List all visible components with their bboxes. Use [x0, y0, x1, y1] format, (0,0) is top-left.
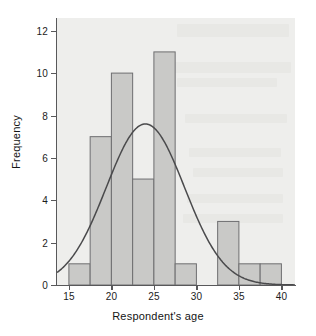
y-axis-tick-label: 0: [42, 280, 48, 291]
x-axis-tick: [196, 285, 197, 290]
x-axis-tick: [69, 285, 70, 290]
y-axis-tick-label: 8: [42, 110, 48, 121]
y-axis-tick-label: 10: [36, 68, 48, 79]
y-axis-tick-label: 12: [36, 25, 48, 36]
histogram-figure: 024681012152025303540 Respondent's age F…: [0, 0, 316, 336]
x-axis-tick: [281, 285, 282, 290]
x-axis-tick-label: 30: [191, 291, 203, 302]
x-axis-tick-label: 25: [148, 291, 160, 302]
x-axis-tick-label: 20: [106, 291, 118, 302]
x-axis-tick-label: 40: [276, 291, 288, 302]
x-axis-tick: [111, 285, 112, 290]
x-axis-title: Respondent's age: [0, 310, 316, 322]
y-axis-tick: [51, 73, 57, 74]
y-axis-tick-label: 6: [42, 152, 48, 163]
y-axis-tick: [51, 243, 57, 244]
y-axis-tick-label: 4: [42, 195, 48, 206]
normal-distribution-curve: [57, 124, 295, 285]
y-axis-line: [56, 18, 57, 286]
x-axis-tick-label: 15: [63, 291, 75, 302]
y-axis-tick: [51, 31, 57, 32]
x-axis-tick-label: 35: [233, 291, 245, 302]
y-axis-tick: [51, 158, 57, 159]
x-axis-tick: [239, 285, 240, 290]
y-axis-title: Frequency: [10, 72, 22, 212]
x-axis-tick: [154, 285, 155, 290]
plot-area: [57, 18, 295, 285]
y-axis-tick-label: 2: [42, 237, 48, 248]
y-axis-tick: [51, 200, 57, 201]
y-axis-tick: [51, 116, 57, 117]
x-axis-line: [56, 285, 296, 286]
normal-curve: [57, 18, 295, 285]
y-axis-tick: [51, 285, 57, 286]
